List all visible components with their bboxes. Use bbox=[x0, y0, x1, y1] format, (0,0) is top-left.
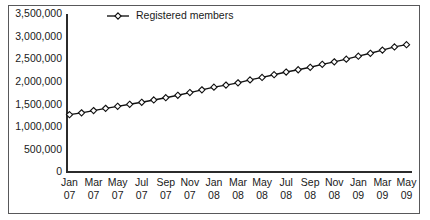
data-point-marker bbox=[127, 101, 133, 107]
x-axis-tick-label-month: May bbox=[252, 176, 273, 188]
y-axis-tick-label: 500,000 bbox=[24, 143, 62, 155]
data-point-marker bbox=[271, 72, 277, 78]
data-point-marker bbox=[175, 92, 181, 98]
x-axis-tick-label-year: 09 bbox=[401, 189, 413, 201]
x-axis-tick-label-year: 08 bbox=[280, 189, 292, 201]
data-point-marker bbox=[355, 53, 361, 59]
data-point-marker bbox=[163, 95, 169, 101]
data-point-marker bbox=[90, 108, 96, 114]
axis-spines bbox=[67, 14, 412, 172]
x-axis-tick-label-year: 07 bbox=[136, 189, 148, 201]
x-axis-tick-label-year: 08 bbox=[232, 189, 244, 201]
legend-marker-icon bbox=[115, 13, 121, 19]
data-point-marker bbox=[139, 99, 145, 105]
y-axis-tick-label: 1,000,000 bbox=[15, 120, 62, 132]
data-point-marker bbox=[199, 87, 205, 93]
data-point-marker bbox=[151, 97, 157, 103]
x-axis-tick-label-month: May bbox=[108, 176, 129, 188]
x-axis-tick-label-month: Jul bbox=[279, 176, 292, 188]
data-point-marker bbox=[211, 84, 217, 90]
data-point-marker bbox=[259, 74, 265, 80]
data-point-marker bbox=[307, 64, 313, 70]
data-point-marker bbox=[379, 47, 385, 53]
data-point-marker bbox=[295, 67, 301, 73]
x-axis-tick-label-year: 08 bbox=[328, 189, 340, 201]
y-axis-tick-label: 2,500,000 bbox=[15, 52, 62, 64]
data-point-marker bbox=[235, 80, 241, 86]
x-axis-tick-label-month: Jan bbox=[205, 176, 222, 188]
x-axis-tick-label-year: 08 bbox=[304, 189, 316, 201]
x-axis-tick-label-month: Jan bbox=[61, 176, 78, 188]
data-point-marker bbox=[223, 82, 229, 88]
x-axis-tick-label-year: 07 bbox=[112, 189, 124, 201]
x-axis-tick-label-month: Jan bbox=[350, 176, 367, 188]
x-axis-tick-label-month: May bbox=[397, 176, 418, 188]
data-point-marker bbox=[391, 44, 397, 50]
y-axis-tick-label: 2,000,000 bbox=[15, 75, 62, 87]
data-point-marker bbox=[331, 59, 337, 65]
legend-label: Registered members bbox=[136, 9, 233, 21]
x-axis-tick-label-year: 07 bbox=[160, 189, 172, 201]
x-axis-tick-label-month: Mar bbox=[373, 176, 392, 188]
data-point-marker bbox=[115, 103, 121, 109]
axes bbox=[67, 14, 412, 172]
data-point-marker bbox=[367, 50, 373, 56]
x-axis-tick-labels: Jan07Mar07May07Jul07Sep07Nov07Jan08Mar08… bbox=[61, 176, 417, 201]
line-chart: 0500,0001,000,0001,500,0002,000,0002,500… bbox=[0, 0, 430, 220]
x-axis-tick-label-month: Nov bbox=[181, 176, 200, 188]
y-axis-tick-label: 3,000,000 bbox=[15, 30, 62, 42]
y-axis-tick-label: 1,500,000 bbox=[15, 98, 62, 110]
data-point-marker bbox=[283, 69, 289, 75]
data-point-marker bbox=[103, 105, 109, 111]
x-axis-tick-label-month: Mar bbox=[85, 176, 104, 188]
data-point-marker bbox=[343, 56, 349, 62]
x-axis-tick-label-year: 07 bbox=[64, 189, 76, 201]
x-axis-tick-label-year: 09 bbox=[377, 189, 389, 201]
chart-legend: Registered members bbox=[107, 9, 233, 21]
data-point-marker bbox=[187, 89, 193, 95]
x-axis-tick-label-year: 09 bbox=[353, 189, 365, 201]
data-point-marker bbox=[247, 77, 253, 83]
data-point-marker bbox=[403, 42, 409, 48]
x-axis-tick-label-year: 08 bbox=[256, 189, 268, 201]
data-point-marker bbox=[319, 61, 325, 67]
x-axis-tick-label-year: 08 bbox=[208, 189, 220, 201]
x-axis-tick-label-month: Jul bbox=[135, 176, 148, 188]
x-axis-tick-label-month: Mar bbox=[229, 176, 248, 188]
y-axis-tick-label: 3,500,000 bbox=[15, 7, 62, 19]
x-axis-tick-label-year: 07 bbox=[88, 189, 100, 201]
x-axis-tick-label-month: Nov bbox=[325, 176, 344, 188]
x-axis-tick-label-month: Sep bbox=[301, 176, 320, 188]
series-registered-members bbox=[66, 42, 409, 118]
chart-figure: 0500,0001,000,0001,500,0002,000,0002,500… bbox=[0, 0, 430, 220]
x-axis-tick-label-year: 07 bbox=[184, 189, 196, 201]
y-axis-tick-labels: 0500,0001,000,0001,500,0002,000,0002,500… bbox=[15, 7, 62, 177]
x-axis-tick-label-month: Sep bbox=[156, 176, 175, 188]
data-point-marker bbox=[78, 110, 84, 116]
